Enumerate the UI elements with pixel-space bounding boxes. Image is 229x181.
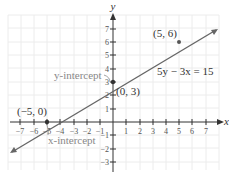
svg-text:−6: −6 — [30, 127, 39, 136]
y-axis-label: y — [110, 0, 116, 12]
label-point-0-3: (0, 3) — [116, 85, 140, 98]
svg-text:7: 7 — [204, 127, 208, 136]
x-intercept-label: x-intercept — [48, 134, 96, 146]
svg-text:2: 2 — [138, 127, 142, 136]
svg-text:1: 1 — [105, 105, 109, 114]
equation-label: 5y − 3x = 15 — [157, 65, 214, 77]
point-5-6 — [177, 40, 181, 44]
svg-text:−1: −1 — [100, 131, 109, 140]
y-intercept-label: y-intercept — [54, 69, 102, 81]
point-0-3 — [111, 80, 115, 84]
svg-text:5: 5 — [105, 51, 109, 60]
svg-text:6: 6 — [190, 127, 194, 136]
svg-text:1: 1 — [124, 127, 128, 136]
coordinate-graph: −7 −6 −5 −4 −3 −2 −1 1 2 3 4 5 6 7 7 6 5… — [0, 0, 229, 181]
svg-text:4: 4 — [105, 65, 109, 74]
svg-text:6: 6 — [105, 38, 109, 47]
equation-line — [10, 29, 218, 153]
x-axis-label: x — [223, 115, 229, 127]
svg-text:4: 4 — [164, 127, 168, 136]
label-point-neg5-0: (−5, 0) — [17, 105, 47, 118]
label-point-5-6: (5, 6) — [153, 27, 177, 40]
svg-text:5: 5 — [177, 127, 181, 136]
svg-text:7: 7 — [105, 25, 109, 34]
svg-text:3: 3 — [105, 78, 109, 87]
svg-text:−7: −7 — [16, 127, 25, 136]
point-neg5-0 — [45, 120, 49, 124]
svg-text:3: 3 — [151, 127, 155, 136]
svg-text:−3: −3 — [100, 158, 109, 167]
svg-text:−2: −2 — [100, 145, 109, 154]
